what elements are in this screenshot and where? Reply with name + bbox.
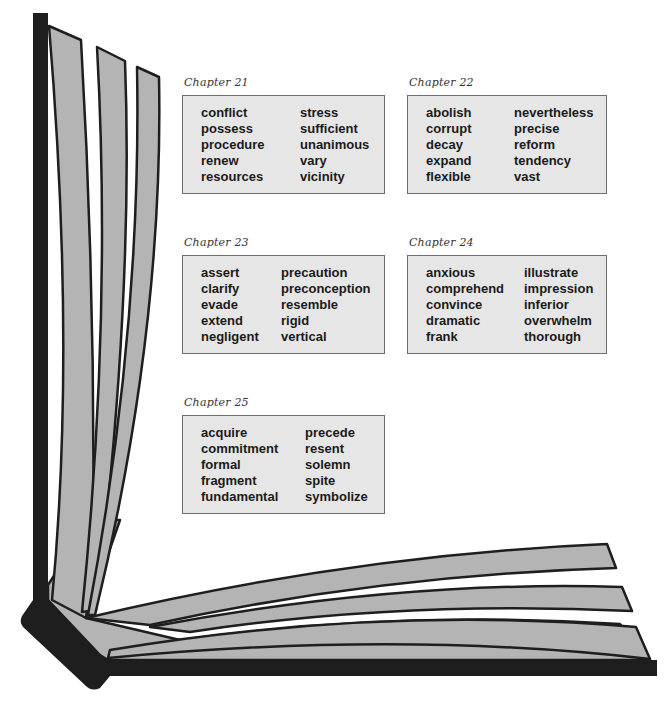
word-column-1: abolish corrupt decay expand flexible [426,105,514,193]
vocab-word: formal [201,457,305,473]
vocab-word: vast [514,169,594,185]
vocab-word: anxious [426,265,524,281]
vocab-word: negligent [201,329,281,345]
word-list-box: conflict possess procedure renew resourc… [182,95,385,194]
vocab-word: precede [305,425,368,441]
word-column-2: illustrate impression inferior overwhelm… [524,265,593,353]
chapter-23-section: Chapter 23 assert clarify evade extend n… [182,236,385,354]
vocab-word: assert [201,265,281,281]
vocab-word: dramatic [426,313,524,329]
vocab-word: acquire [201,425,305,441]
vocab-word: preconception [281,281,371,297]
chapter-title: Chapter 24 [409,236,607,249]
vocab-word: solemn [305,457,368,473]
word-column-1: acquire commitment formal fragment funda… [201,425,305,513]
vocab-word: precise [514,121,594,137]
word-column-2: stress sufficient unanimous vary vicinit… [300,105,369,193]
vocab-word: frank [426,329,524,345]
vocab-word: inferior [524,297,593,313]
vocab-word: rigid [281,313,371,329]
vocab-word: vicinity [300,169,369,185]
vocab-word: commitment [201,441,305,457]
vocab-word: symbolize [305,489,368,505]
vocab-word: conflict [201,105,300,121]
word-list-box: acquire commitment formal fragment funda… [182,415,385,514]
vocab-word: spite [305,473,368,489]
vocab-word: convince [426,297,524,313]
vocab-word: clarify [201,281,281,297]
word-list-box: assert clarify evade extend negligent pr… [182,255,385,354]
vocab-word: resources [201,169,300,185]
vocab-word: thorough [524,329,593,345]
vocab-word: illustrate [524,265,593,281]
word-column-1: assert clarify evade extend negligent [201,265,281,353]
vocab-word: fragment [201,473,305,489]
chapter-title: Chapter 22 [409,76,607,89]
chapter-title: Chapter 23 [184,236,385,249]
vocab-word: overwhelm [524,313,593,329]
chapter-title: Chapter 25 [184,396,385,409]
vocab-word: resent [305,441,368,457]
vocab-word: decay [426,137,514,153]
vertical-page-1 [49,26,94,618]
vocab-word: extend [201,313,281,329]
vocab-word: comprehend [426,281,524,297]
chapter-25-section: Chapter 25 acquire commitment formal fra… [182,396,385,514]
vocab-word: reform [514,137,594,153]
vocab-word: vary [300,153,369,169]
vocab-word: nevertheless [514,105,594,121]
vocab-word: procedure [201,137,300,153]
word-column-2: precede resent solemn spite symbolize [305,425,368,513]
chapter-22-section: Chapter 22 abolish corrupt decay expand … [407,76,607,194]
chapter-24-section: Chapter 24 anxious comprehend convince d… [407,236,607,354]
word-list-box: anxious comprehend convince dramatic fra… [407,255,607,354]
vocab-word: tendency [514,153,594,169]
vocab-word: fundamental [201,489,305,505]
word-list-box: abolish corrupt decay expand flexible ne… [407,95,607,194]
vocab-word: corrupt [426,121,514,137]
chapter-21-section: Chapter 21 conflict possess procedure re… [182,76,385,194]
book-cover-horizontal [100,660,657,676]
vocab-word: resemble [281,297,371,313]
book-spine-vertical [33,13,48,608]
word-column-1: anxious comprehend convince dramatic fra… [426,265,524,353]
vocab-word: impression [524,281,593,297]
vocab-word: vertical [281,329,371,345]
word-column-1: conflict possess procedure renew resourc… [201,105,300,193]
vocab-word: sufficient [300,121,369,137]
vocab-word: expand [426,153,514,169]
word-column-2: precaution preconception resemble rigid … [281,265,371,353]
vocab-word: renew [201,153,300,169]
vocab-word: unanimous [300,137,369,153]
vocab-word: flexible [426,169,514,185]
word-column-2: nevertheless precise reform tendency vas… [514,105,594,193]
vocab-word: evade [201,297,281,313]
vocab-word: precaution [281,265,371,281]
vocab-word: possess [201,121,300,137]
chapter-title: Chapter 21 [184,76,385,89]
vocab-word: abolish [426,105,514,121]
vocab-word: stress [300,105,369,121]
